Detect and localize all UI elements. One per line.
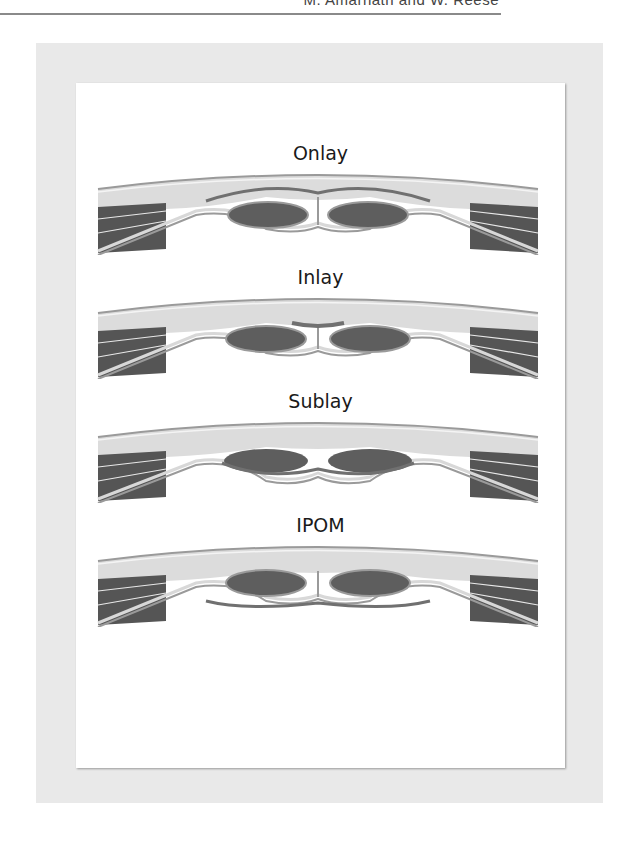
technique-onlay: Onlay bbox=[76, 141, 565, 265]
figure-panel: Onlay bbox=[76, 83, 565, 768]
running-header: M. Amarnath and W. Reese bbox=[304, 0, 499, 8]
technique-ipom: IPOM bbox=[76, 513, 565, 637]
abdominal-wall-cross-section bbox=[96, 163, 540, 255]
technique-label: Inlay bbox=[76, 265, 565, 289]
technique-inlay: Inlay bbox=[76, 265, 565, 389]
abdominal-wall-cross-section bbox=[96, 535, 540, 627]
abdominal-wall-cross-section bbox=[96, 287, 540, 379]
mesh-ipom bbox=[206, 601, 430, 607]
technique-sublay: Sublay bbox=[76, 389, 565, 513]
technique-label: IPOM bbox=[76, 513, 565, 537]
technique-label: Onlay bbox=[76, 141, 565, 165]
figure-frame: Onlay bbox=[36, 43, 603, 803]
header-rule bbox=[0, 13, 501, 15]
rectus-muscle-right bbox=[328, 202, 408, 228]
abdominal-wall-cross-section bbox=[96, 411, 540, 503]
technique-label: Sublay bbox=[76, 389, 565, 413]
rectus-muscle-left bbox=[228, 202, 308, 228]
